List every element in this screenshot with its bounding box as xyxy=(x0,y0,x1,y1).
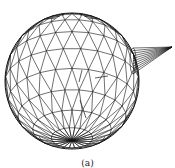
wireframe-sphere-figure xyxy=(0,0,175,168)
figure-caption: (a) xyxy=(0,158,175,168)
sphere-mesh xyxy=(5,13,139,149)
